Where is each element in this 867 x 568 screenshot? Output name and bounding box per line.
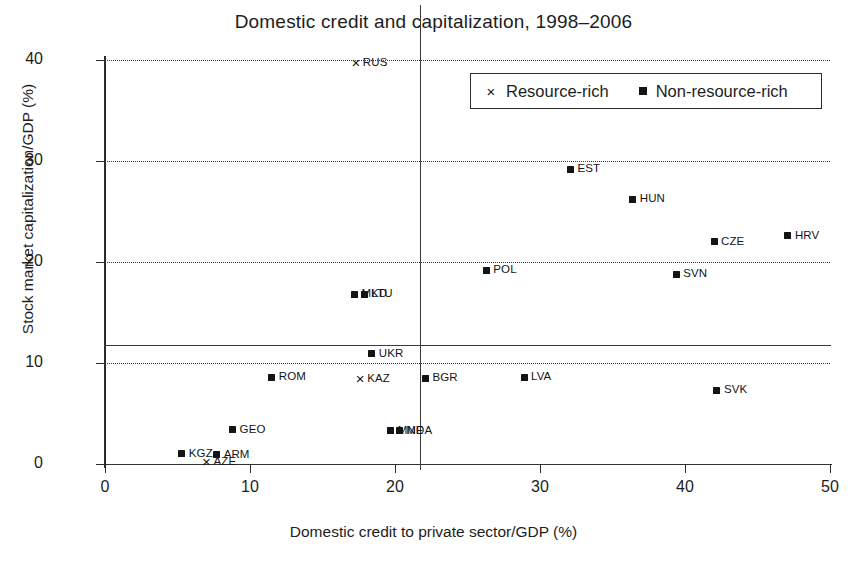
square-marker-icon xyxy=(713,387,720,394)
x-tick xyxy=(540,464,541,473)
legend-entry-non-resource-rich: Non-resource-rich xyxy=(639,82,788,101)
data-point-label: BGR xyxy=(432,371,457,383)
data-point-label: HUN xyxy=(640,192,665,204)
data-point-label: MDA xyxy=(406,424,432,436)
y-tick xyxy=(96,363,105,364)
data-point-label: POL xyxy=(493,263,516,275)
square-marker-icon xyxy=(368,350,375,357)
x-tick-label: 40 xyxy=(662,478,708,496)
x-tick xyxy=(250,464,251,473)
data-point-label: KAZ xyxy=(367,372,390,384)
x-axis-title: Domestic credit to private sector/GDP (%… xyxy=(0,523,867,541)
gridline-y xyxy=(105,363,830,364)
square-marker-icon xyxy=(396,427,403,434)
square-marker-icon xyxy=(213,451,220,458)
data-point-label: SVN xyxy=(683,267,707,279)
x-tick-label: 10 xyxy=(227,478,273,496)
vertical-reference-line xyxy=(420,5,421,470)
gridline-y xyxy=(105,161,830,162)
gridline-y xyxy=(105,262,830,263)
data-point-label: KGZ xyxy=(189,447,213,459)
data-point-label: CZE xyxy=(721,235,744,247)
y-tick xyxy=(96,161,105,162)
x-tick xyxy=(830,464,831,473)
square-marker-icon xyxy=(229,426,236,433)
y-tick xyxy=(96,464,105,465)
square-marker-icon xyxy=(639,87,647,95)
gridline-y xyxy=(105,60,830,61)
chart-legend: × Resource-rich Non-resource-rich xyxy=(470,73,822,109)
square-marker-icon xyxy=(268,374,275,381)
cross-marker-icon: × xyxy=(350,57,362,69)
square-marker-icon xyxy=(422,375,429,382)
cross-marker-icon: × xyxy=(354,373,366,385)
square-marker-icon xyxy=(521,374,528,381)
data-point-label: LTU xyxy=(372,287,393,299)
x-tick xyxy=(685,464,686,473)
scatter-chart-figure: Domestic credit and capitalization, 1998… xyxy=(0,0,867,568)
square-marker-icon xyxy=(567,166,574,173)
data-point-label: LVA xyxy=(531,370,551,382)
horizontal-reference-line xyxy=(104,345,831,346)
y-axis-title: Stock market capitalization/GDP (%) xyxy=(19,0,37,489)
plot-area: 010203040 01020304050 ×RUS×KAZ×AZEESTHUN… xyxy=(105,60,830,464)
square-marker-icon xyxy=(629,196,636,203)
x-tick xyxy=(105,464,106,473)
square-marker-icon xyxy=(784,232,791,239)
data-point-label: SVK xyxy=(724,383,747,395)
x-tick-label: 20 xyxy=(372,478,418,496)
data-point-label: UKR xyxy=(379,347,404,359)
x-tick xyxy=(395,464,396,473)
square-marker-icon xyxy=(483,267,490,274)
square-marker-icon xyxy=(711,238,718,245)
x-tick-label: 50 xyxy=(807,478,853,496)
data-point-label: HRV xyxy=(795,229,819,241)
chart-title: Domestic credit and capitalization, 1998… xyxy=(0,11,867,33)
square-marker-icon xyxy=(387,427,394,434)
data-point-label: EST xyxy=(577,162,600,174)
legend-label-non-resource-rich: Non-resource-rich xyxy=(656,82,788,101)
x-tick-label: 0 xyxy=(82,478,128,496)
legend-label-resource-rich: Resource-rich xyxy=(506,82,609,101)
data-point-label: RUS xyxy=(363,56,388,68)
x-tick-label: 30 xyxy=(517,478,563,496)
data-point-label: ROM xyxy=(279,370,306,382)
square-marker-icon xyxy=(361,291,368,298)
cross-marker-icon: × xyxy=(485,83,497,100)
data-point-label: GEO xyxy=(240,423,266,435)
legend-entry-resource-rich: × Resource-rich xyxy=(485,82,609,101)
y-tick xyxy=(96,262,105,263)
square-marker-icon xyxy=(673,271,680,278)
y-tick xyxy=(96,60,105,61)
data-point-label: ARM xyxy=(224,448,250,460)
square-marker-icon xyxy=(351,291,358,298)
square-marker-icon xyxy=(178,450,185,457)
